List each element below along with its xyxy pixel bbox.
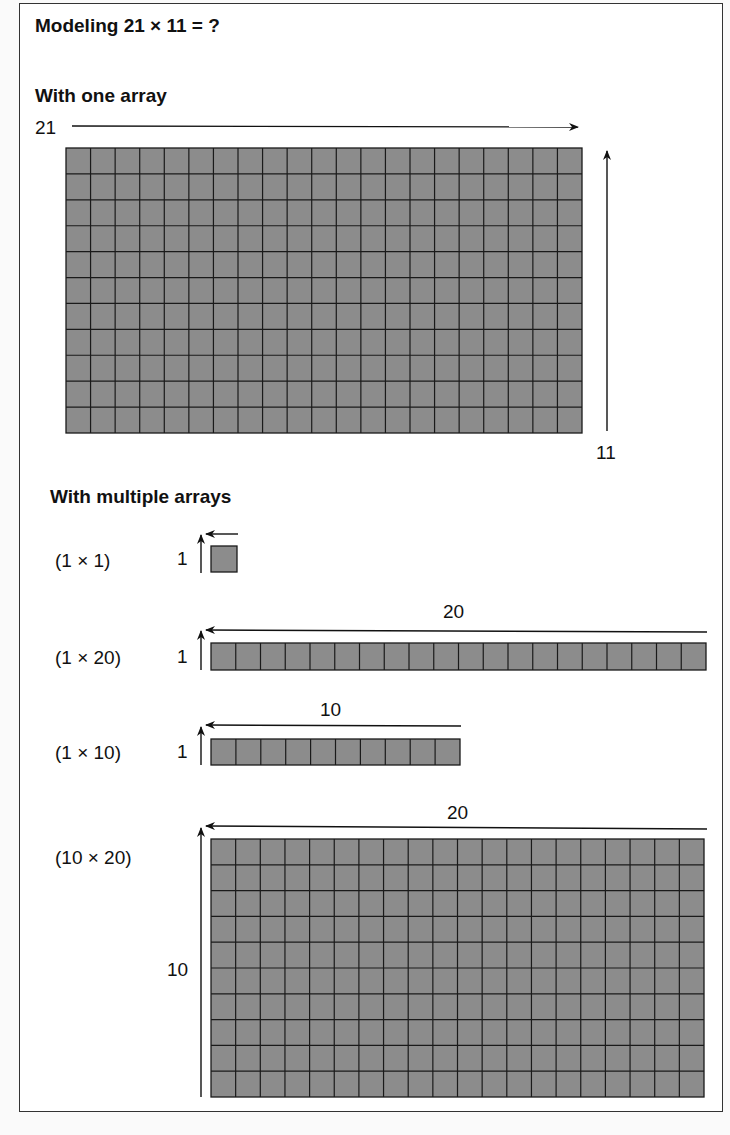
array-1x20: [211, 643, 706, 670]
array-grids: [66, 148, 706, 1097]
array-10x20: [211, 839, 704, 1097]
arrow-left-10x20: [206, 826, 707, 829]
array-1x10: [211, 739, 460, 765]
arrow-right-21: [72, 126, 578, 127]
arrays-diagram: [0, 0, 730, 1135]
array-21x11: [66, 148, 582, 433]
arrow-left-1x20: [206, 630, 707, 632]
arrow-left-1x10: [206, 725, 461, 726]
array-1x1: [211, 546, 237, 572]
